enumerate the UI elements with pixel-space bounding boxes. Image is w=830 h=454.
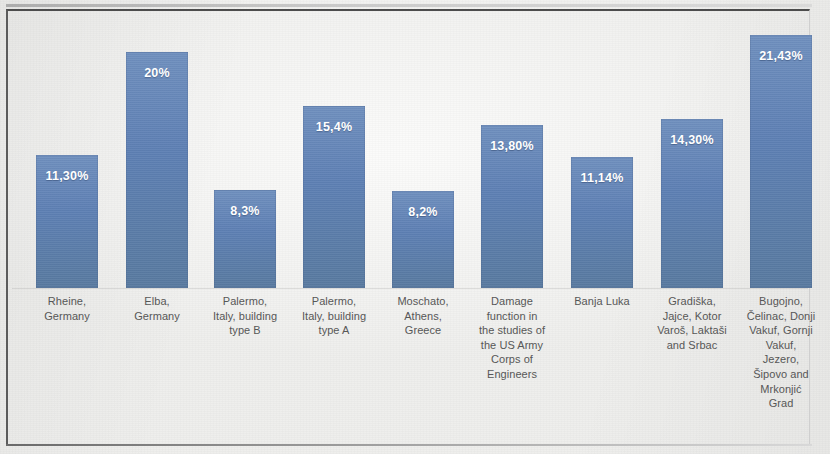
category-label-line: type A: [290, 323, 378, 338]
bar[interactable]: 21,43%: [750, 35, 812, 288]
category-label-line: Damage: [466, 294, 558, 309]
bar-column[interactable]: 15,4%: [303, 106, 365, 288]
bar-value-label: 21,43%: [750, 49, 812, 63]
category-label-line: Jezero,: [733, 352, 829, 367]
bar[interactable]: 8,3%: [214, 190, 276, 288]
category-label-line: Palermo,: [290, 294, 378, 309]
category-label-line: Rheine,: [23, 294, 111, 309]
category-label-line: Vakuf,: [733, 338, 829, 353]
category-label-line: Vakuf, Gornji: [733, 323, 829, 338]
category-label-line: Palermo,: [201, 294, 289, 309]
bar-column[interactable]: 8,2%: [392, 191, 454, 288]
frame-top-shadow: [6, 4, 812, 7]
category-axis-baseline: [12, 288, 808, 289]
category-label-line: Gradiška,: [644, 294, 740, 309]
category-label-line: Banja Luka: [558, 294, 646, 309]
bar-value-label: 15,4%: [303, 120, 365, 134]
category-label-line: the studies of: [466, 323, 558, 338]
category-label-line: Čelinac, Donji: [733, 309, 829, 324]
category-label-line: Šipovo and: [733, 367, 829, 382]
category-label-line: type B: [201, 323, 289, 338]
category-label-line: Greece: [379, 323, 467, 338]
category-label: Moschato,Athens,Greece: [379, 294, 467, 338]
bar-value-label: 20%: [126, 66, 188, 80]
bar[interactable]: 8,2%: [392, 191, 454, 288]
bar-column[interactable]: 13,80%: [481, 125, 543, 288]
bar-column[interactable]: 11,14%: [571, 157, 633, 288]
plot-area: 11,30%20%8,3%15,4%8,2%13,80%11,14%14,30%…: [12, 11, 810, 288]
bar-column[interactable]: 14,30%: [661, 119, 723, 288]
bar[interactable]: 20%: [126, 52, 188, 288]
category-label: Bugojno,Čelinac, DonjiVakuf, GornjiVakuf…: [733, 294, 829, 411]
category-label-line: Athens,: [379, 309, 467, 324]
category-label: Elba,Germany: [113, 294, 201, 323]
category-axis-labels: Rheine,GermanyElba,GermanyPalermo,Italy,…: [12, 294, 810, 452]
category-label-line: Germany: [23, 309, 111, 324]
bar[interactable]: 14,30%: [661, 119, 723, 288]
category-label: Banja Luka: [558, 294, 646, 309]
category-label-line: Elba,: [113, 294, 201, 309]
bar-value-label: 13,80%: [481, 139, 543, 153]
category-label-line: the US Army: [466, 338, 558, 353]
category-label-line: Moschato,: [379, 294, 467, 309]
bar-value-label: 11,30%: [36, 169, 98, 183]
category-label-line: and Srbac: [644, 338, 740, 353]
bar-column[interactable]: 8,3%: [214, 190, 276, 288]
category-label-line: Italy, building: [290, 309, 378, 324]
bar-column[interactable]: 21,43%: [750, 35, 812, 288]
category-label-line: Jajce, Kotor: [644, 309, 740, 324]
bar-value-label: 14,30%: [661, 133, 723, 147]
category-label: Damagefunction inthe studies ofthe US Ar…: [466, 294, 558, 382]
category-label-line: Germany: [113, 309, 201, 324]
category-label-line: Grad: [733, 396, 829, 411]
category-label-line: Corps of: [466, 352, 558, 367]
category-label: Palermo,Italy, buildingtype B: [201, 294, 289, 338]
category-label: Palermo,Italy, buildingtype A: [290, 294, 378, 338]
bar-column[interactable]: 20%: [126, 52, 188, 288]
category-label-line: Varoš, Laktaši: [644, 323, 740, 338]
category-label: Gradiška,Jajce, KotorVaroš, Laktašiand S…: [644, 294, 740, 352]
bar[interactable]: 11,14%: [571, 157, 633, 288]
bar-value-label: 8,2%: [392, 205, 454, 219]
bar-series: 11,30%20%8,3%15,4%8,2%13,80%11,14%14,30%…: [12, 11, 810, 288]
bar[interactable]: 13,80%: [481, 125, 543, 288]
bar-column[interactable]: 11,30%: [36, 155, 98, 288]
bar-value-label: 11,14%: [571, 171, 633, 185]
category-label-line: function in: [466, 309, 558, 324]
bar[interactable]: 15,4%: [303, 106, 365, 288]
category-label-line: Engineers: [466, 367, 558, 382]
bar[interactable]: 11,30%: [36, 155, 98, 288]
category-label: Rheine,Germany: [23, 294, 111, 323]
category-label-line: Italy, building: [201, 309, 289, 324]
category-label-line: Bugojno,: [733, 294, 829, 309]
bar-value-label: 8,3%: [214, 204, 276, 218]
category-label-line: Mrkonjić: [733, 382, 829, 397]
chart-screenshot: 11,30%20%8,3%15,4%8,2%13,80%11,14%14,30%…: [0, 0, 830, 454]
